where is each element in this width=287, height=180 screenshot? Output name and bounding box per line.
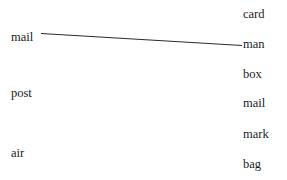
word-association-canvas: mail post air card man box mail mark bag — [0, 0, 287, 180]
edge-mail-man[interactable] — [41, 34, 242, 46]
left-word-0[interactable]: mail — [11, 31, 33, 44]
edge-layer — [0, 0, 287, 180]
right-word-2[interactable]: box — [243, 68, 262, 81]
right-word-0[interactable]: card — [243, 8, 265, 21]
right-word-4[interactable]: mark — [243, 128, 269, 141]
left-word-2[interactable]: air — [11, 147, 24, 160]
right-word-5[interactable]: bag — [243, 158, 261, 171]
right-word-1[interactable]: man — [243, 38, 265, 51]
right-word-3[interactable]: mail — [243, 97, 265, 110]
left-word-1[interactable]: post — [11, 87, 32, 100]
